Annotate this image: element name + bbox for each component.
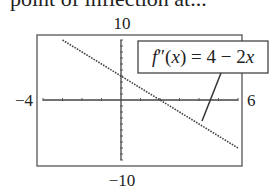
equation-label: f″(x) = 4 − 2x [152,46,255,68]
ymax-label: 10 [114,14,131,33]
xmax-label: 6 [247,91,256,110]
ymin-label: −10 [109,171,136,190]
xmin-label: −4 [15,91,34,110]
leader-line [202,73,221,121]
chart-figure: f″(x) = 4 − 2x 10 −10 −4 6 [0,0,280,195]
